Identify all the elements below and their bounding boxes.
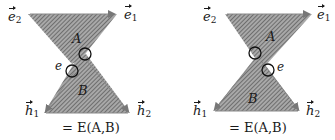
label-edge-e-right: e xyxy=(277,61,284,73)
caption-left: = E(A,B) xyxy=(62,120,120,135)
label-e1-right: e1 xyxy=(317,8,330,23)
figure: e2 e1 A e B h1 h2 = E(A,B) e2 e1 A e B h… xyxy=(0,0,335,140)
label-edge-e-left: e xyxy=(55,60,62,72)
label-e2-left: e2 xyxy=(8,10,21,25)
left-hourglass xyxy=(28,14,130,113)
label-h1-left: h1 xyxy=(25,104,39,119)
diagram-graphics xyxy=(0,0,335,140)
label-e2-right: e2 xyxy=(203,10,216,25)
caption-right: = E(A,B) xyxy=(229,120,287,135)
right-hourglass xyxy=(213,14,312,111)
label-h2-left: h2 xyxy=(137,104,151,119)
label-h2-right: h2 xyxy=(306,104,320,119)
label-h1-right: h1 xyxy=(193,104,207,119)
label-region-b-right: B xyxy=(248,92,258,105)
label-region-b-left: B xyxy=(78,84,88,97)
label-region-a-right: A xyxy=(266,30,275,43)
label-region-a-left: A xyxy=(72,32,81,45)
label-e1-left: e1 xyxy=(124,8,137,23)
